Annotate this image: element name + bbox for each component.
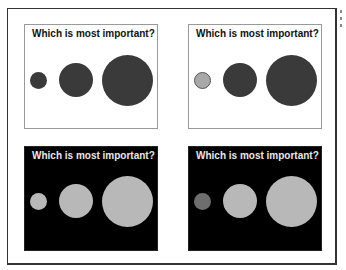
large-circle <box>266 55 317 106</box>
medium-circle <box>223 63 257 97</box>
medium-circle <box>223 184 257 218</box>
large-circle <box>102 55 153 106</box>
edge-marks <box>340 10 343 31</box>
panel-title: Which is most important? <box>32 150 155 161</box>
panel-title: Which is most important? <box>32 28 155 39</box>
panel-top-left: Which is most important? <box>24 24 158 129</box>
panel-title: Which is most important? <box>196 150 319 161</box>
small-circle <box>30 72 47 89</box>
large-circle <box>266 176 317 227</box>
small-circle <box>194 193 211 210</box>
small-circle <box>30 193 47 210</box>
medium-circle <box>59 184 93 218</box>
panel-top-right: Which is most important? <box>188 24 322 129</box>
small-circle <box>194 72 211 89</box>
panel-bottom-left: Which is most important? <box>24 146 158 251</box>
panel-title: Which is most important? <box>196 28 319 39</box>
panel-bottom-right: Which is most important? <box>188 146 322 251</box>
medium-circle <box>59 63 93 97</box>
large-circle <box>102 176 153 227</box>
